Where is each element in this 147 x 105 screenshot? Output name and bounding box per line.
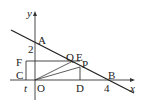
- y-axis-label: y: [26, 7, 32, 19]
- geometry-diagram: y x A 2 F C t O Q E P D B 4: [0, 0, 147, 105]
- point-O-label: O: [37, 82, 45, 94]
- point-C-label: C: [16, 69, 23, 81]
- point-A-label: A: [38, 34, 46, 46]
- point-F-label: F: [16, 56, 22, 68]
- point-Q-label: Q: [66, 51, 74, 63]
- rectangle-CFE: [26, 61, 80, 80]
- y-axis-arrow-icon: [33, 11, 37, 16]
- tick-t-label: t: [24, 82, 28, 94]
- point-D-label: D: [76, 82, 84, 94]
- point-P-label: P: [82, 58, 88, 70]
- x-axis-label: x: [129, 82, 135, 94]
- point-B-label: B: [108, 69, 115, 81]
- tick-2-label: 2: [28, 43, 34, 55]
- tick-4-label: 4: [104, 82, 110, 94]
